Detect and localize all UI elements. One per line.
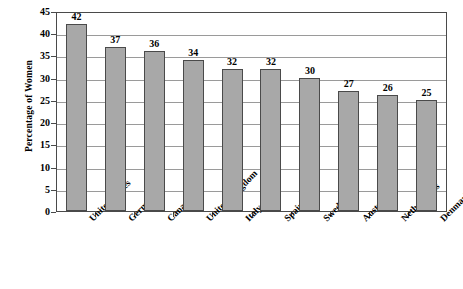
bar-value-label: 32	[266, 56, 276, 67]
y-axis-tick-label: 15	[40, 140, 50, 150]
bar-slot: 25	[407, 13, 446, 211]
y-axis-tick-label: 30	[40, 74, 50, 84]
bar-value-label: 34	[188, 47, 198, 58]
bar-value-label: 42	[71, 11, 81, 22]
y-axis-tick-label: 35	[40, 51, 50, 61]
x-axis-category-labels: United StatesGermanyCanadaUnited Kingdom…	[56, 217, 447, 289]
bar-slot: 30	[290, 13, 329, 211]
bar[interactable]: 32	[260, 69, 281, 211]
x-axis-category-label: Spain	[283, 217, 290, 224]
bar-slot: 26	[368, 13, 407, 211]
y-axis-tick-label: 0	[45, 207, 50, 217]
x-axis-category-label: Canada	[166, 217, 173, 224]
bar-slot: 42	[57, 13, 96, 211]
bar[interactable]: 37	[105, 47, 126, 211]
bar-slot: 36	[135, 13, 174, 211]
bar[interactable]: 32	[222, 69, 243, 211]
x-axis-category-label: United Kingdom	[205, 217, 212, 224]
x-axis-category-label: Austria	[361, 217, 368, 224]
y-axis-tick-label: 40	[40, 29, 50, 39]
bar[interactable]: 25	[416, 100, 437, 211]
bar-value-label: 25	[422, 87, 432, 98]
x-axis-category-label: United States	[88, 217, 95, 224]
bar-slot: 37	[96, 13, 135, 211]
bar-value-label: 27	[344, 78, 354, 89]
plot-area: 42373634323230272625	[56, 12, 447, 212]
bar[interactable]: 27	[338, 91, 359, 211]
bar-value-label: 30	[305, 65, 315, 76]
y-axis-tick-label: 20	[40, 118, 50, 128]
bar[interactable]: 34	[183, 60, 204, 211]
bar[interactable]: 26	[377, 95, 398, 211]
bar-slot: 32	[213, 13, 252, 211]
bar-slot: 32	[252, 13, 291, 211]
bar[interactable]: 30	[299, 78, 320, 211]
x-axis-category-label: Germany	[127, 217, 134, 224]
bar[interactable]: 42	[66, 24, 87, 211]
y-axis-tick-labels: 454035302520151050	[0, 12, 56, 212]
bar-slot: 27	[329, 13, 368, 211]
x-axis-category-label: Denmark	[439, 217, 446, 224]
bar-value-label: 32	[227, 56, 237, 67]
bar-chart: Percentage of Women 454035302520151050 4…	[0, 0, 463, 289]
bar[interactable]: 36	[144, 51, 165, 211]
bar-series: 42373634323230272625	[57, 13, 446, 211]
bar-value-label: 36	[149, 38, 159, 49]
bar-slot: 34	[174, 13, 213, 211]
x-axis-category-label: Netherlands	[400, 217, 407, 224]
bar-value-label: 26	[383, 82, 393, 93]
y-axis-tick-label: 10	[40, 163, 50, 173]
x-axis-category-label: Sweden	[322, 217, 329, 224]
bar-value-label: 37	[110, 34, 120, 45]
x-axis-category-label: Italy	[244, 217, 251, 224]
y-axis-tick-label: 25	[40, 96, 50, 106]
y-axis-tick-label: 45	[40, 7, 50, 17]
y-axis-tick-label: 5	[45, 185, 50, 195]
